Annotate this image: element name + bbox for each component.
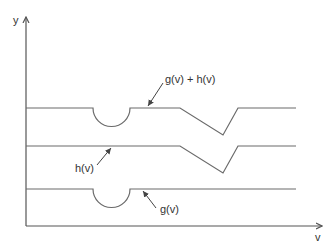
- sum-pointer-arrow: [148, 83, 163, 106]
- h-label: h(v): [75, 162, 94, 174]
- x-axis-label: v: [315, 231, 321, 243]
- sum-label: g(v) + h(v): [165, 73, 215, 85]
- g-label: g(v): [160, 203, 179, 215]
- h-waveform: [26, 146, 296, 173]
- curve-h: h(v): [26, 146, 296, 174]
- sum-waveform: [26, 108, 296, 135]
- curve-sum: g(v) + h(v): [26, 73, 296, 135]
- signal-sum-diagram: y v g(v) + h(v) h(v) g(v): [0, 0, 332, 248]
- g-pointer-arrow: [143, 191, 156, 208]
- curve-g: g(v): [26, 189, 296, 215]
- h-pointer-arrow: [97, 148, 111, 165]
- y-axis-label: y: [13, 14, 19, 26]
